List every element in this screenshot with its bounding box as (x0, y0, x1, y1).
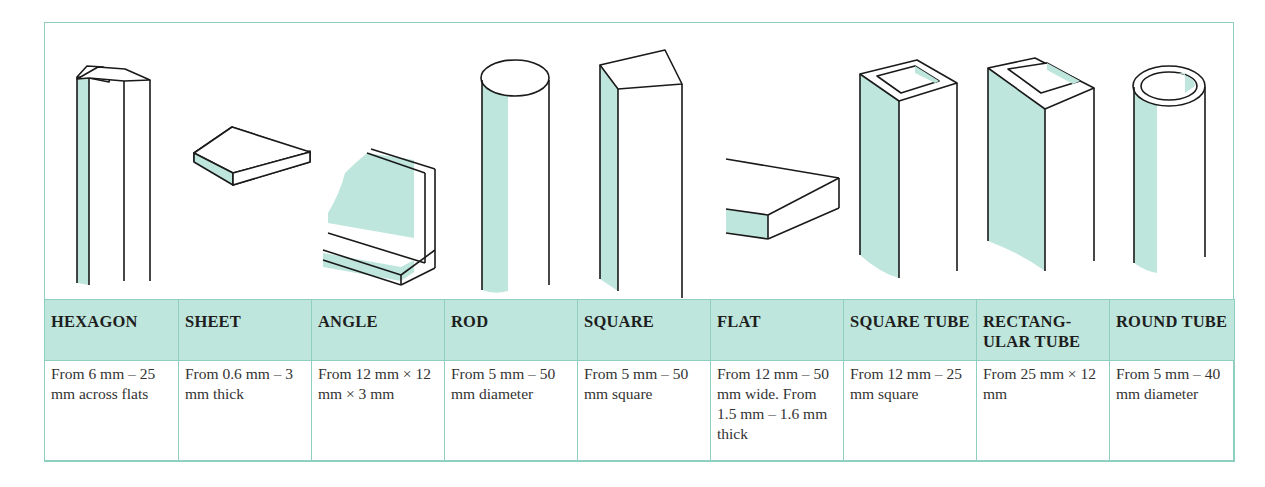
rod-icon (481, 60, 549, 293)
sheet-icon (194, 127, 310, 185)
header-angle: ANGLE (312, 300, 445, 361)
description-square-tube: From 12 mm – 25 mm square (844, 361, 977, 462)
metal-forms-figure: HEXAGON SHEET ANGLE ROD SQUARE FLAT SQUA… (44, 22, 1234, 461)
header-rod: ROD (445, 300, 578, 361)
description-flat: From 12 mm – 50 mm wide. From 1.5 mm – 1… (711, 361, 844, 462)
flat-bar-icon (726, 159, 839, 239)
square-tube-icon (860, 60, 957, 278)
description-sheet: From 0.6 mm – 3 mm thick (179, 361, 312, 462)
shapes-table: HEXAGON SHEET ANGLE ROD SQUARE FLAT SQUA… (44, 299, 1235, 462)
description-rectangular-tube: From 25 mm × 12 mm (977, 361, 1110, 462)
hexagon-bar-icon (77, 65, 150, 285)
rectangular-tube-icon (988, 58, 1094, 271)
description-square: From 5 mm – 50 mm square (578, 361, 711, 462)
header-rectangular-tube: RECTANG-ULAR TUBE (977, 300, 1110, 361)
description-angle: From 12 mm × 12 mm × 3 mm (312, 361, 445, 462)
description-hexagon: From 6 mm – 25 mm across flats (45, 361, 179, 462)
square-bar-icon (600, 50, 682, 298)
header-row: HEXAGON SHEET ANGLE ROD SQUARE FLAT SQUA… (45, 300, 1235, 361)
header-hexagon: HEXAGON (45, 300, 179, 361)
header-round-tube: ROUND TUBE (1110, 300, 1235, 361)
description-round-tube: From 5 mm – 40 mm diameter (1110, 361, 1235, 462)
drawings-panel (45, 23, 1233, 299)
header-sheet: SHEET (179, 300, 312, 361)
round-tube-icon (1133, 66, 1205, 273)
angle-icon (323, 149, 435, 285)
header-flat: FLAT (711, 300, 844, 361)
description-row: From 6 mm – 25 mm across flats From 0.6 … (45, 361, 1235, 462)
description-rod: From 5 mm – 50 mm diameter (445, 361, 578, 462)
header-square-tube: SQUARE TUBE (844, 300, 977, 361)
header-square: SQUARE (578, 300, 711, 361)
